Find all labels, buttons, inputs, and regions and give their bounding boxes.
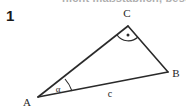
triangle-diagram: A B C c α: [0, 0, 186, 109]
right-angle-dot-icon: [127, 34, 130, 37]
figure-container: nicht maßstäblich, beschriftet 1 A B C c…: [0, 0, 186, 109]
side-ca-line: [38, 26, 128, 97]
side-label-c: c: [108, 88, 113, 99]
side-cb-line: [128, 26, 168, 72]
vertex-label-b: B: [172, 67, 179, 79]
vertex-label-a: A: [23, 96, 31, 108]
vertex-label-c: C: [123, 7, 130, 19]
angle-label-alpha: α: [56, 84, 61, 94]
angle-a-arc: [65, 79, 72, 91]
